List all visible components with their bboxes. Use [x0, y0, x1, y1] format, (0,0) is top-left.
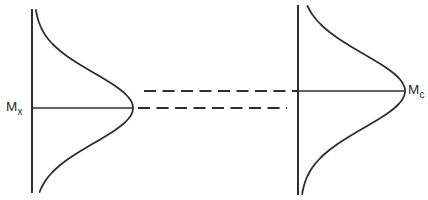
- left-mean-label: Mx: [6, 98, 23, 117]
- distribution-comparison-figure: Mx Mc: [0, 0, 428, 200]
- left-mean-label-base: M: [6, 99, 18, 114]
- left-mean-label-subscript: x: [18, 106, 23, 117]
- right-mean-label-base: M: [408, 82, 420, 97]
- left-distribution-curve: [36, 10, 133, 192]
- right-mean-label-subscript: c: [420, 89, 425, 100]
- figure-svg: [0, 0, 428, 200]
- right-distribution-curve: [302, 6, 405, 194]
- right-mean-label: Mc: [408, 81, 425, 100]
